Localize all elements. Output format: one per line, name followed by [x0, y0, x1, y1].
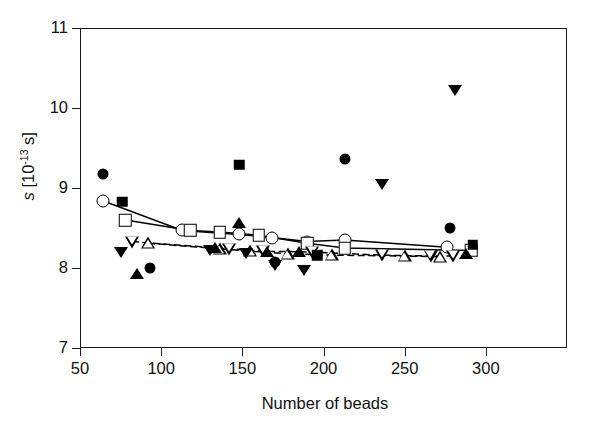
- x-tick: [486, 348, 487, 356]
- x-tick-label: 200: [294, 360, 354, 377]
- y-axis-title: s [10-13 s]: [18, 56, 39, 276]
- y-axis-symbol: s: [19, 192, 37, 200]
- y-tick: [72, 268, 80, 269]
- x-tick-label: 150: [212, 360, 272, 377]
- x-tick: [324, 348, 325, 356]
- chart-root: 7891011 50100150200250300 Number of bead…: [0, 0, 592, 436]
- y-tick: [72, 348, 80, 349]
- x-tick: [242, 348, 243, 356]
- y-axis-exponent: -13: [18, 149, 30, 164]
- y-axis-unit-open: [10: [19, 165, 37, 188]
- y-tick-label: 9: [38, 179, 68, 196]
- y-tick-label: 8: [38, 259, 68, 276]
- x-tick: [405, 348, 406, 356]
- x-tick-label: 250: [375, 360, 435, 377]
- y-tick-label: 7: [38, 339, 68, 356]
- y-tick: [72, 188, 80, 189]
- y-axis-unit-close: s]: [19, 132, 37, 149]
- x-tick-label: 300: [456, 360, 516, 377]
- x-axis-title: Number of beads: [0, 394, 592, 413]
- y-tick-label: 10: [38, 99, 68, 116]
- x-tick-label: 50: [50, 360, 110, 377]
- x-tick: [80, 348, 81, 356]
- y-tick: [72, 108, 80, 109]
- x-tick-label: 100: [131, 360, 191, 377]
- y-tick-label: 11: [38, 19, 68, 36]
- x-tick: [161, 348, 162, 356]
- plot-frame: [80, 28, 567, 348]
- y-tick: [72, 28, 80, 29]
